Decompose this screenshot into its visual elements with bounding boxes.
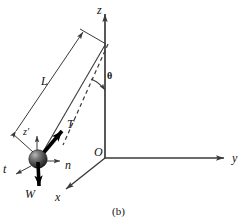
- figure-container: z y x O L θ T W n t z′ (b): [0, 0, 247, 223]
- length-extension-top: [80, 29, 106, 44]
- origin-label: O: [94, 146, 103, 158]
- pendulum-diagram-svg: [0, 0, 247, 223]
- theta-label: θ: [107, 71, 112, 81]
- coordinate-axes: [66, 14, 224, 189]
- pendulum-cord: [40, 45, 105, 157]
- figure-caption: (b): [112, 206, 125, 217]
- t-axis-arrow: [16, 166, 31, 174]
- x-axis-line: [66, 158, 105, 189]
- z-prime-axis-label: z′: [23, 127, 29, 137]
- t-axis-label: t: [3, 163, 6, 175]
- weight-vector-arrow: [38, 162, 39, 186]
- x-axis-label: x: [55, 191, 60, 203]
- z-axis-label: z: [97, 4, 102, 16]
- theta-arc-path: [91, 79, 105, 90]
- length-label: L: [41, 75, 48, 87]
- weight-label: W: [25, 188, 35, 200]
- theta-angle-arc: [91, 79, 105, 90]
- weight-vector: [38, 162, 39, 186]
- cord-line: [40, 45, 105, 157]
- tension-label: T: [67, 118, 74, 130]
- n-axis-label: n: [65, 159, 71, 171]
- y-axis-label: y: [232, 152, 237, 164]
